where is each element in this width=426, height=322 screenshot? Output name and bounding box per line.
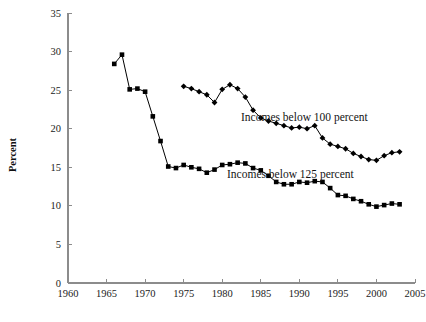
x-tick-label: 1965 xyxy=(96,288,117,299)
data-point xyxy=(336,193,341,198)
data-point xyxy=(289,182,294,187)
data-point xyxy=(219,86,225,92)
figure-caption-cropped xyxy=(10,317,310,322)
data-point xyxy=(127,87,132,92)
data-point xyxy=(228,162,233,167)
x-tick-label: 2005 xyxy=(405,288,426,299)
series-label-1: Incomes below 100 percent xyxy=(241,111,369,124)
data-point xyxy=(397,202,402,207)
data-point xyxy=(235,160,240,165)
y-tick-label: 30 xyxy=(51,46,62,57)
data-point xyxy=(366,157,372,163)
x-axis: 1960196519701975198019851990199520002005 xyxy=(58,279,426,299)
data-point xyxy=(274,180,279,185)
data-point xyxy=(212,167,217,172)
data-point xyxy=(166,164,171,169)
data-point xyxy=(350,151,356,157)
data-point xyxy=(390,201,395,206)
y-tick-label: 15 xyxy=(51,162,62,173)
data-point xyxy=(381,153,387,159)
y-axis: 05101520253035 xyxy=(51,8,73,289)
x-tick-label: 1995 xyxy=(327,288,348,299)
data-point xyxy=(296,124,302,130)
data-point xyxy=(281,123,287,129)
x-tick-label: 1985 xyxy=(250,288,271,299)
data-point xyxy=(243,161,248,166)
data-point xyxy=(120,52,125,57)
data-point xyxy=(289,125,295,131)
data-point xyxy=(374,157,380,163)
data-point xyxy=(112,62,117,67)
series-label-2: Incomes below 125 percent xyxy=(227,168,355,181)
y-tick-label: 10 xyxy=(51,200,62,211)
x-tick-label: 1990 xyxy=(289,288,310,299)
data-point xyxy=(358,154,364,160)
data-point xyxy=(374,204,379,209)
data-point xyxy=(143,89,148,94)
data-point xyxy=(320,180,325,185)
x-tick-label: 1975 xyxy=(173,288,194,299)
data-point xyxy=(205,170,210,175)
data-point xyxy=(343,194,348,199)
data-point xyxy=(328,186,333,191)
x-tick-label: 2000 xyxy=(366,288,387,299)
series-1 xyxy=(112,52,402,209)
data-point xyxy=(304,126,310,132)
series-annotations: Incomes below 100 percentIncomes below 1… xyxy=(227,111,369,181)
x-tick-label: 1960 xyxy=(58,288,79,299)
data-point xyxy=(335,144,341,150)
data-point xyxy=(189,165,194,170)
data-point xyxy=(181,163,186,168)
data-point xyxy=(135,86,140,91)
data-point xyxy=(389,150,395,156)
data-point xyxy=(197,167,202,172)
data-point xyxy=(382,203,387,208)
data-point xyxy=(220,163,225,168)
data-point xyxy=(181,83,187,89)
y-tick-label: 25 xyxy=(51,85,62,96)
data-point xyxy=(297,180,302,185)
data-point xyxy=(227,82,233,88)
poverty-rate-line-chart: 05101520253035 1960196519701975198019851… xyxy=(0,0,426,322)
data-point xyxy=(188,86,194,92)
data-point xyxy=(282,182,287,187)
data-point xyxy=(397,149,403,155)
y-axis-title: Percent xyxy=(7,137,18,172)
data-point xyxy=(158,139,163,144)
y-tick-label: 0 xyxy=(56,278,61,289)
data-point xyxy=(196,89,202,95)
y-tick-label: 20 xyxy=(51,123,62,134)
data-series-group xyxy=(112,52,403,209)
data-point xyxy=(343,146,349,152)
data-point xyxy=(359,199,364,204)
chart-canvas: 05101520253035 1960196519701975198019851… xyxy=(0,0,426,322)
y-tick-label: 35 xyxy=(51,8,62,19)
data-point xyxy=(366,202,371,207)
x-tick-label: 1970 xyxy=(135,288,156,299)
data-point xyxy=(305,180,310,185)
data-point xyxy=(351,197,356,202)
x-tick-label: 1980 xyxy=(212,288,233,299)
y-tick-label: 5 xyxy=(56,239,61,250)
data-point xyxy=(312,123,318,129)
data-point xyxy=(151,114,156,119)
data-point xyxy=(174,166,179,171)
